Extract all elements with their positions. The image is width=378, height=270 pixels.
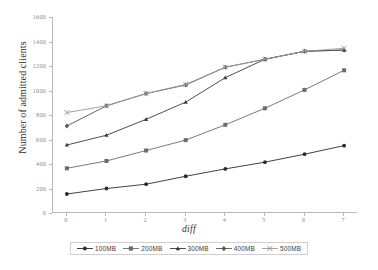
data-point bbox=[144, 149, 148, 153]
legend-marker-cross-icon bbox=[262, 244, 278, 253]
data-point bbox=[223, 123, 227, 127]
x-tick-mark bbox=[145, 213, 146, 216]
y-tick-label: 600 bbox=[20, 136, 46, 143]
x-tick-mark bbox=[105, 213, 106, 216]
series-line bbox=[67, 70, 344, 168]
x-tick-mark bbox=[264, 213, 265, 216]
data-point bbox=[104, 159, 108, 163]
x-tick-label: 6 bbox=[296, 216, 312, 223]
legend-label: 400MB bbox=[234, 245, 255, 252]
x-tick-label: 2 bbox=[137, 216, 153, 223]
data-point bbox=[105, 187, 109, 191]
legend-item-500mb[interactable]: 500MB bbox=[262, 244, 301, 253]
series-100mb bbox=[65, 144, 346, 196]
x-tick-label: 0 bbox=[58, 216, 74, 223]
data-point bbox=[65, 166, 69, 170]
x-tick-mark bbox=[185, 213, 186, 216]
data-point bbox=[263, 106, 267, 110]
x-axis-title: diff bbox=[0, 224, 378, 234]
legend-marker-diamond-icon bbox=[216, 244, 232, 253]
data-point bbox=[184, 174, 188, 178]
data-point bbox=[144, 182, 148, 186]
legend-marker-circle-icon bbox=[77, 244, 93, 253]
plot-area bbox=[52, 17, 357, 213]
x-tick-mark bbox=[343, 213, 344, 216]
series-canvas bbox=[53, 17, 358, 213]
data-point bbox=[342, 68, 346, 72]
legend-label: 200MB bbox=[141, 245, 162, 252]
legend-marker-triangle-icon bbox=[169, 244, 185, 253]
chart-legend: 100MB200MB300MB400MB500MB bbox=[70, 242, 308, 255]
y-tick-label: 1000 bbox=[20, 87, 46, 94]
x-tick-mark bbox=[66, 213, 67, 216]
data-point bbox=[303, 152, 307, 156]
data-point bbox=[65, 192, 69, 196]
legend-item-400mb[interactable]: 400MB bbox=[216, 244, 255, 253]
data-point bbox=[223, 167, 227, 171]
y-tick-mark bbox=[49, 213, 52, 214]
y-tick-label: 1200 bbox=[20, 62, 46, 69]
data-point bbox=[263, 160, 267, 164]
x-tick-label: 7 bbox=[335, 216, 351, 223]
y-tick-label: 200 bbox=[20, 185, 46, 192]
series-line bbox=[67, 50, 344, 145]
y-tick-label: 400 bbox=[20, 160, 46, 167]
series-300mb bbox=[65, 48, 346, 147]
y-tick-label: 1400 bbox=[20, 38, 46, 45]
legend-item-100mb[interactable]: 100MB bbox=[77, 244, 116, 253]
legend-label: 100MB bbox=[95, 245, 116, 252]
data-point bbox=[184, 100, 188, 104]
data-point bbox=[342, 144, 346, 148]
data-point bbox=[303, 88, 307, 92]
x-tick-label: 1 bbox=[97, 216, 113, 223]
x-tick-label: 3 bbox=[177, 216, 193, 223]
chart-figure: Number of admitted clients 0200400600800… bbox=[0, 0, 378, 270]
legend-item-300mb[interactable]: 300MB bbox=[169, 244, 208, 253]
legend-label: 500MB bbox=[280, 245, 301, 252]
x-tick-label: 5 bbox=[256, 216, 272, 223]
legend-item-200mb[interactable]: 200MB bbox=[123, 244, 162, 253]
y-axis-title: Number of admitted clients bbox=[17, 33, 28, 163]
legend-marker-square-icon bbox=[123, 244, 139, 253]
x-tick-mark bbox=[224, 213, 225, 216]
legend-label: 300MB bbox=[187, 245, 208, 252]
data-point bbox=[65, 124, 69, 129]
x-tick-label: 4 bbox=[216, 216, 232, 223]
series-line bbox=[67, 146, 344, 194]
y-tick-label: 0 bbox=[20, 209, 46, 216]
x-tick-mark bbox=[304, 213, 305, 216]
y-tick-label: 800 bbox=[20, 111, 46, 118]
y-tick-label: 1600 bbox=[20, 13, 46, 20]
data-point bbox=[184, 138, 188, 142]
series-line bbox=[67, 48, 344, 112]
